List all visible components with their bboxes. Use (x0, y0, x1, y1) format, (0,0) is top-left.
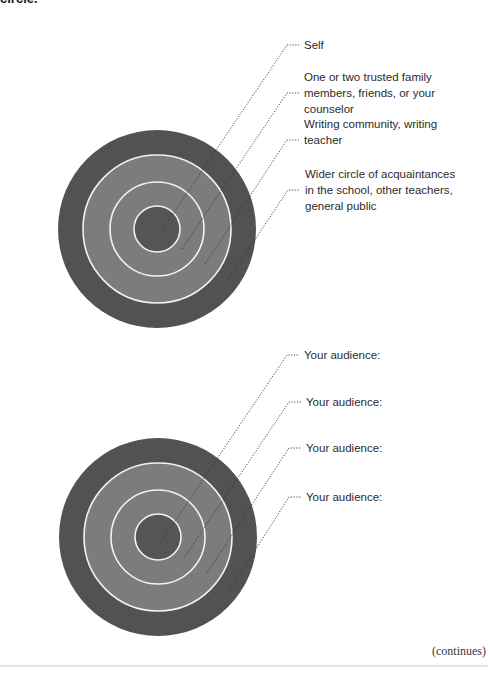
label-your-audience-2: Your audience: (306, 394, 382, 410)
label-your-audience-4: Your audience: (306, 489, 382, 505)
label-your-audience-1: Your audience: (304, 347, 380, 363)
inner-core (134, 206, 180, 252)
inner-core (135, 514, 181, 560)
label-your-audience-3: Your audience: (306, 440, 382, 456)
page-divider (0, 665, 488, 667)
label-writing-community: Writing community, writing teacher (304, 116, 437, 148)
example-target-diagram (58, 45, 300, 328)
label-trusted-family: One or two trusted family members, frien… (304, 69, 435, 117)
worksheet-target-diagram (59, 355, 301, 636)
continues-note: (continues) (432, 644, 486, 659)
label-self: Self (304, 37, 324, 53)
label-wider-circle: Wider circle of acquaintances in the sch… (305, 166, 455, 214)
